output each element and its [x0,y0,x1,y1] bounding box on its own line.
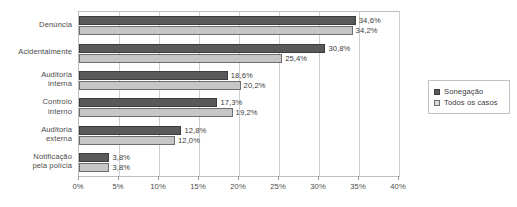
legend-swatch-icon [434,89,440,95]
bar-group: 12,8%12,0% [79,126,399,145]
axis-tick-label: 10% [150,182,166,191]
bar-value-label: 18,6% [231,71,253,80]
category-label-line: interno [0,107,72,116]
axis-tick-mark [278,176,279,180]
gridline [159,12,160,176]
gridline [119,12,120,176]
category-label: Auditoriaexterna [0,125,72,143]
gridline [279,12,280,176]
bar [79,71,228,80]
bar-value-label: 17,3% [220,98,242,107]
category-label: Notificaçãopela polícia [0,152,72,170]
bar-value-label: 19,2% [236,108,258,117]
axis-tick-label: 40% [390,182,406,191]
plot-area: 34,6%34,2%30,8%25,4%18,6%20,2%17,3%19,2%… [78,11,400,177]
legend-label: Sonegação [444,87,483,96]
axis-tick-label: 30% [310,182,326,191]
axis-tick-mark [318,176,319,180]
category-label-line: Denúncia [0,20,72,29]
bar-group: 34,6%34,2% [79,16,399,35]
axis-tick-label: 5% [112,182,123,191]
axis-tick-label: 20% [230,182,246,191]
axis-tick-mark [358,176,359,180]
axis-tick-mark [78,176,79,180]
category-axis: DenúnciaAcidentalmenteAuditoriainternaCo… [0,11,76,175]
category-label: Acidentalmente [0,47,72,56]
category-label: Denúncia [0,20,72,29]
bar [79,153,109,162]
legend-label: Todos os casos [444,98,498,107]
category-label: Controlointerno [0,97,72,115]
legend: SonegaçãoTodos os casos [428,80,510,114]
bar-group: 18,6%20,2% [79,71,399,90]
bar-value-label: 34,2% [356,26,378,35]
bar [79,16,356,25]
bar [79,44,325,53]
axis-tick-mark [118,176,119,180]
bar-value-label: 34,6% [359,16,381,25]
axis-tick-mark [238,176,239,180]
bar-group: 3,8%3,8% [79,153,399,172]
bar [79,54,282,63]
bar [79,98,217,107]
gridline [319,12,320,176]
bar-group: 17,3%19,2% [79,98,399,117]
category-label: Auditoriainterna [0,70,72,88]
bar-value-label: 12,0% [178,136,200,145]
category-label-line: Auditoria [0,125,72,134]
bar-chart: DenúnciaAcidentalmenteAuditoriainternaCo… [0,0,517,207]
gridline [199,12,200,176]
category-label-line: Acidentalmente [0,47,72,56]
bar-value-label: 3,8% [112,153,130,162]
bar [79,108,233,117]
bar [79,81,241,90]
category-label-line: Auditoria [0,70,72,79]
bar-value-label: 3,8% [112,163,130,172]
axis-tick-label: 0% [72,182,83,191]
axis-tick-mark [398,176,399,180]
category-label-line: externa [0,134,72,143]
bar [79,136,175,145]
category-label-line: Notificação [0,152,72,161]
axis-tick-mark [198,176,199,180]
value-axis: 0%5%10%15%20%25%30%35%40% [78,176,399,198]
category-label-line: pela polícia [0,161,72,170]
bar-value-label: 12,8% [184,126,206,135]
axis-tick-label: 15% [190,182,206,191]
gridline [399,12,400,176]
bar-value-label: 25,4% [285,54,307,63]
bar-group: 30,8%25,4% [79,44,399,63]
bar [79,126,181,135]
axis-tick-mark [158,176,159,180]
axis-tick-label: 25% [270,182,286,191]
legend-swatch-icon [434,100,440,106]
axis-tick-label: 35% [350,182,366,191]
category-label-line: Controlo [0,97,72,106]
bar [79,26,353,35]
bar-value-label: 30,8% [328,44,350,53]
legend-item[interactable]: Todos os casos [434,98,504,107]
bar-value-label: 20,2% [244,81,266,90]
gridline [359,12,360,176]
legend-item[interactable]: Sonegação [434,87,504,96]
category-label-line: interna [0,79,72,88]
gridline [239,12,240,176]
bar [79,163,109,172]
